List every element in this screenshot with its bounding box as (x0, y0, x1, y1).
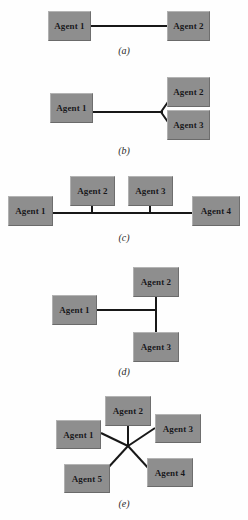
caption-c: (c) (0, 232, 248, 243)
node-label: Agent 1 (63, 430, 93, 440)
node-label: Agent 1 (15, 206, 45, 216)
node-label: Agent 3 (173, 120, 203, 130)
caption-d: (d) (0, 366, 248, 377)
link-spoke-agent3 (128, 428, 155, 446)
node-label: Agent 2 (173, 21, 203, 31)
node-d-agent-3[interactable]: Agent 3 (133, 332, 179, 362)
node-d-agent-1[interactable]: Agent 1 (52, 295, 97, 325)
node-label: Agent 4 (155, 468, 185, 478)
node-label: Agent 3 (141, 342, 171, 352)
node-label: Agent 3 (163, 424, 193, 434)
node-label: Agent 1 (59, 305, 89, 315)
node-e-agent-2[interactable]: Agent 2 (105, 396, 151, 426)
node-a-agent-2[interactable]: Agent 2 (167, 11, 210, 41)
node-e-agent-4[interactable]: Agent 4 (147, 458, 193, 487)
node-e-agent-3[interactable]: Agent 3 (155, 414, 201, 443)
node-label: Agent 4 (201, 206, 231, 216)
link-spoke-agent1 (101, 433, 128, 446)
node-label: Agent 2 (141, 277, 171, 287)
caption-a: (a) (0, 45, 248, 56)
node-c-agent-1[interactable]: Agent 1 (8, 196, 53, 226)
node-b-agent-2[interactable]: Agent 2 (167, 77, 210, 107)
links-e (0, 0, 248, 520)
node-label: Agent 3 (135, 186, 165, 196)
caption-e: (e) (0, 498, 248, 509)
node-e-agent-5[interactable]: Agent 5 (64, 464, 110, 493)
node-a-agent-1[interactable]: Agent 1 (48, 11, 91, 41)
node-c-agent-3[interactable]: Agent 3 (128, 176, 173, 206)
caption-b: (b) (0, 145, 248, 156)
node-label: Agent 1 (54, 21, 84, 31)
node-c-agent-2[interactable]: Agent 2 (70, 176, 115, 206)
node-c-agent-4[interactable]: Agent 4 (192, 196, 240, 226)
node-label: Agent 5 (72, 474, 102, 484)
node-label: Agent 2 (173, 87, 203, 97)
node-d-agent-2[interactable]: Agent 2 (133, 267, 179, 297)
node-b-agent-1[interactable]: Agent 1 (50, 93, 93, 123)
node-label: Agent 2 (77, 186, 107, 196)
node-label: Agent 2 (113, 406, 143, 416)
node-b-agent-3[interactable]: Agent 3 (167, 110, 210, 140)
node-label: Agent 1 (56, 103, 86, 113)
node-e-agent-1[interactable]: Agent 1 (56, 420, 101, 449)
